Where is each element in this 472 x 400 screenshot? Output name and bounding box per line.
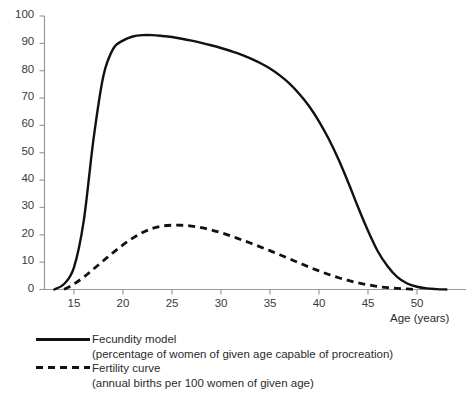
chart-figure: 01020304050607080901001520253035404550 A… [0,0,472,400]
legend-swatch-dashed-line [36,361,92,375]
y-axis-tick-label: 50 [0,145,34,157]
legend-item-fertility-curve: Fertility curve [36,361,466,376]
x-axis-tick-label: 45 [348,297,388,309]
y-axis-tick-label: 40 [0,172,34,184]
y-axis-tick-label: 70 [0,90,34,102]
y-axis-tick-label: 100 [0,8,34,20]
x-axis-ticks [74,290,417,295]
data-series-group [54,35,446,289]
y-axis-tick-label: 20 [0,227,34,239]
x-axis-tick-label: 35 [250,297,290,309]
y-axis-ticks [40,16,45,290]
x-axis-tick-label: 50 [397,297,437,309]
legend-item-fecundity-model: Fecundity model [36,332,466,347]
y-axis-tick-label: 60 [0,117,34,129]
x-axis-tick-label: 15 [54,297,94,309]
legend-sublabel-fertility-curve: (annual births per 100 women of given ag… [92,376,466,390]
legend-swatch-solid-line [36,332,92,346]
axis-spines [45,16,467,290]
x-axis-tick-label: 25 [152,297,192,309]
legend-label-fecundity-model: Fecundity model [92,332,176,346]
y-axis-tick-label: 30 [0,199,34,211]
chart-legend: Fecundity model (percentage of women of … [36,332,466,390]
x-axis-tick-label: 30 [201,297,241,309]
series-line-fertility-curve [64,225,417,289]
y-axis-tick-label: 10 [0,254,34,266]
x-axis-tick-label: 20 [103,297,143,309]
x-axis-title: Age (years) [390,312,449,324]
y-axis-tick-label: 0 [0,282,34,294]
legend-sublabel-fecundity-model: (percentage of women of given age capabl… [92,347,466,361]
x-axis-tick-label: 40 [299,297,339,309]
y-axis-tick-label: 90 [0,35,34,47]
legend-label-fertility-curve: Fertility curve [92,361,160,375]
footnote-text [4,390,284,399]
y-axis-tick-label: 80 [0,63,34,75]
